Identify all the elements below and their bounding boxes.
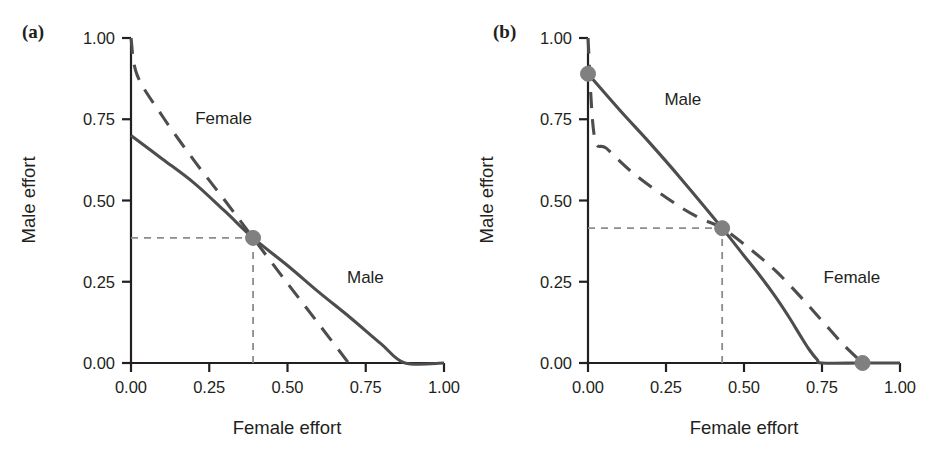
series-label-male: Male	[664, 90, 701, 109]
panel-a-axes	[131, 38, 444, 363]
series-male-line	[588, 74, 900, 363]
y-tick-label: 1.00	[83, 29, 115, 47]
series-female-line	[588, 38, 863, 363]
panel-a: (a) 0.000.250.500.751.00 0.000.250.500.7…	[0, 0, 471, 467]
y-tick-label: 0.00	[83, 354, 115, 372]
panel-a-guides	[131, 238, 253, 363]
x-tick-label: 0.50	[728, 378, 760, 396]
data-point-female-end	[855, 356, 870, 371]
panel-b-axes	[588, 38, 900, 363]
x-axis-title: Female effort	[690, 417, 799, 438]
y-tick-label: 0.50	[540, 192, 572, 210]
series-female-line	[131, 38, 349, 363]
x-tick-label: 0.00	[115, 378, 147, 396]
panel-a-plot: 0.000.250.500.751.00 0.000.250.500.751.0…	[0, 0, 471, 467]
x-tick-label: 0.25	[650, 378, 682, 396]
x-tick-label: 1.00	[428, 378, 460, 396]
panel-b-plot: 0.000.250.500.751.00 0.000.250.500.751.0…	[471, 0, 942, 467]
y-tick-label: 1.00	[540, 29, 572, 47]
panel-b-y-ticks: 0.000.250.500.751.00	[540, 29, 588, 372]
y-tick-label: 0.00	[540, 354, 572, 372]
series-label-female: Female	[824, 268, 881, 287]
figure-root: (a) 0.000.250.500.751.00 0.000.250.500.7…	[0, 0, 943, 467]
data-point-male-start	[581, 66, 596, 81]
y-tick-label: 0.75	[540, 110, 572, 128]
series-label-female: Female	[195, 109, 252, 128]
panel-b-markers	[581, 66, 871, 370]
panel-b-guides	[588, 228, 722, 363]
x-axis-title: Female effort	[233, 417, 342, 438]
y-axis-title: Male effort	[18, 156, 39, 243]
x-tick-label: 0.75	[806, 378, 838, 396]
x-tick-label: 0.25	[193, 378, 225, 396]
y-axis-title: Male effort	[476, 156, 497, 243]
data-point-intersection	[246, 230, 261, 245]
panel-a-x-ticks: 0.000.250.500.751.00	[115, 363, 460, 396]
panel-a-y-ticks: 0.000.250.500.751.00	[83, 29, 131, 372]
x-tick-label: 0.75	[350, 378, 382, 396]
series-male-line	[131, 136, 444, 365]
y-tick-label: 0.50	[83, 192, 115, 210]
panel-a-markers	[246, 230, 261, 245]
y-tick-label: 0.25	[83, 273, 115, 291]
x-tick-label: 0.00	[572, 378, 604, 396]
series-label-male: Male	[347, 268, 384, 287]
x-tick-label: 1.00	[884, 378, 916, 396]
panel-b: (b) 0.000.250.500.751.00 0.000.250.500.7…	[471, 0, 942, 467]
y-tick-label: 0.25	[540, 273, 572, 291]
data-point-intersection	[715, 221, 730, 236]
x-tick-label: 0.50	[271, 378, 303, 396]
y-tick-label: 0.75	[83, 110, 115, 128]
